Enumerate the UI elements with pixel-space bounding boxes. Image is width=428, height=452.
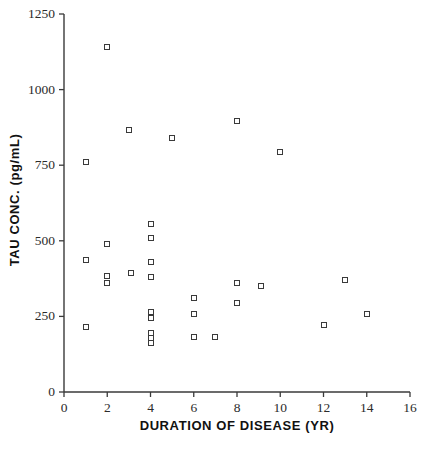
data-point (126, 127, 132, 133)
data-point (148, 221, 154, 227)
data-point (169, 135, 175, 141)
data-point (148, 274, 154, 280)
data-point (148, 259, 154, 265)
data-point (258, 283, 264, 289)
x-axis-label: DURATION OF DISEASE (YR) (64, 418, 410, 433)
data-point (83, 257, 89, 263)
x-tick-label: 16 (390, 400, 428, 416)
data-point (191, 295, 197, 301)
data-point (234, 118, 240, 124)
data-point (148, 315, 154, 321)
x-tick-label: 0 (44, 400, 84, 416)
y-axis-label: TAU CONC. (pg/mL) (4, 0, 24, 400)
x-tick-label: 14 (347, 400, 387, 416)
data-point (104, 280, 110, 286)
x-tick-label: 12 (304, 400, 344, 416)
data-point (104, 44, 110, 50)
data-point (148, 340, 154, 346)
data-point (364, 311, 370, 317)
x-tick-label: 4 (131, 400, 171, 416)
data-point (128, 270, 134, 276)
data-point (83, 159, 89, 165)
x-tick-label: 6 (174, 400, 214, 416)
data-point (191, 311, 197, 317)
plot-axes (0, 0, 428, 452)
data-point (104, 241, 110, 247)
data-point (321, 322, 327, 328)
y-tick-label: 0 (10, 384, 55, 400)
data-point (234, 280, 240, 286)
x-tick-label: 8 (217, 400, 257, 416)
data-point (191, 334, 197, 340)
data-point (234, 300, 240, 306)
y-tick-label: 750 (10, 157, 55, 173)
data-point (148, 235, 154, 241)
data-point (104, 273, 110, 279)
data-point (277, 149, 283, 155)
scatter-plot-figure: TAU CONC. (pg/mL) DURATION OF DISEASE (Y… (0, 0, 428, 452)
x-tick-label: 2 (87, 400, 127, 416)
data-point (342, 277, 348, 283)
y-tick-label: 1250 (10, 6, 55, 22)
y-tick-label: 250 (10, 308, 55, 324)
y-tick-label: 500 (10, 233, 55, 249)
x-tick-label: 10 (260, 400, 300, 416)
data-point (83, 324, 89, 330)
data-point (212, 334, 218, 340)
y-tick-label: 1000 (10, 82, 55, 98)
